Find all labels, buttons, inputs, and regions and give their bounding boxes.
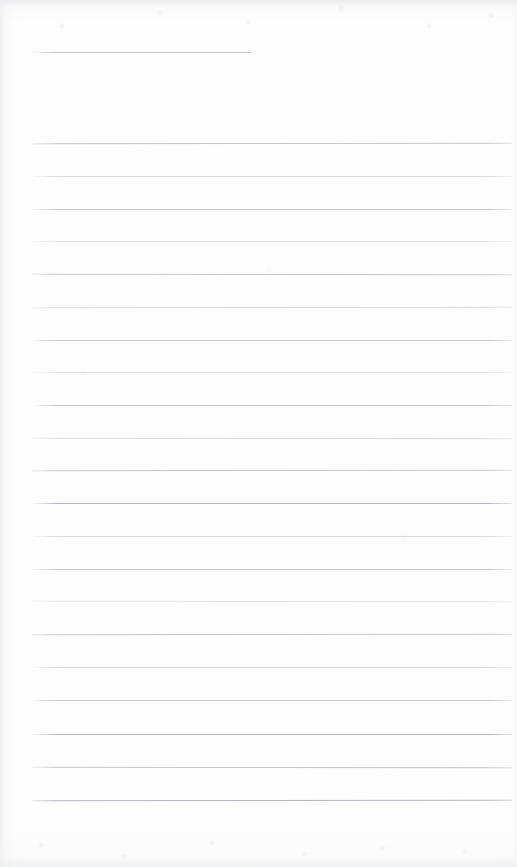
ruled-line <box>32 241 512 242</box>
ruled-line <box>32 405 512 406</box>
ruled-line <box>32 503 512 504</box>
ruled-line <box>32 209 512 210</box>
ruled-line <box>32 438 512 439</box>
ruled-line <box>32 734 512 735</box>
ruled-line <box>32 470 512 471</box>
ruled-line <box>32 569 512 570</box>
scan-vignette <box>0 0 517 867</box>
ruled-line <box>32 634 512 635</box>
ruled-line <box>32 667 512 668</box>
ruled-line <box>32 536 512 537</box>
ruled-line <box>32 800 512 801</box>
scanned-page <box>0 0 517 867</box>
ruled-line <box>32 176 512 177</box>
header-rule <box>32 52 251 53</box>
scan-grain-texture <box>0 0 517 867</box>
ruled-line <box>32 274 512 275</box>
ruled-line <box>32 307 512 308</box>
ruled-line <box>32 340 512 341</box>
paper-background <box>0 0 517 867</box>
ruled-line <box>32 700 512 701</box>
ruled-line <box>32 601 512 602</box>
ruled-line <box>32 767 512 768</box>
ruled-line <box>32 143 512 144</box>
ruled-line <box>32 372 512 373</box>
